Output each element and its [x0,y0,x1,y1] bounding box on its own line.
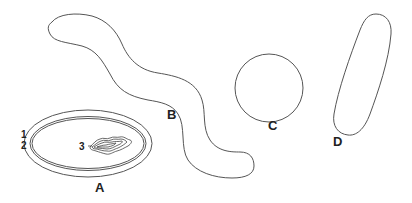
part-label-3: 3 [79,142,85,152]
cell-a-inner-membrane-inner [32,119,144,169]
nucleoid-icon [88,137,131,154]
cell-b-spirillum-outline [48,14,254,178]
bacteria-shapes-diagram: 1 2 3 A B C D [0,0,412,203]
cell-label-d: D [333,135,342,148]
cell-label-b: B [167,108,176,121]
cell-label-a: A [95,181,104,194]
cell-c-coccus-outline [235,54,303,122]
part-label-1: 1 [21,130,27,140]
cell-label-c: C [268,119,277,132]
part-label-2: 2 [21,141,27,151]
cell-a-outer-layer [24,110,152,177]
diagram-canvas [0,0,412,203]
cell-d-bacillus-outline [334,14,391,135]
cell-a-inner-membrane-outer [30,117,146,171]
